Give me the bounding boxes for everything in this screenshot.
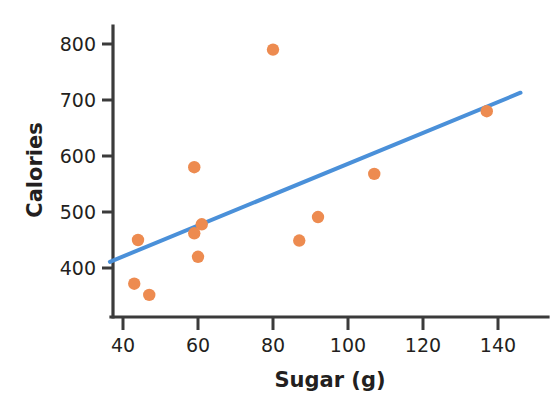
trend-line	[110, 93, 521, 262]
data-point	[481, 105, 493, 117]
x-tick-label-40: 40	[111, 334, 135, 356]
x-axis-title: Sugar (g)	[274, 368, 385, 392]
x-tick-label-80: 80	[261, 334, 285, 356]
y-axis-ticks	[102, 44, 113, 268]
data-point	[368, 168, 380, 180]
data-point	[312, 211, 324, 223]
x-axis-tick-labels: 40 60 80 100 120 140	[111, 334, 516, 356]
data-point	[143, 289, 155, 301]
x-tick-label-140: 140	[480, 334, 516, 356]
data-point	[128, 277, 140, 289]
x-tick-label-60: 60	[186, 334, 210, 356]
scatter-plot-figure: 800 700 600 500 400 40 60 80 100 120 140	[0, 0, 556, 402]
x-axis-ticks	[123, 317, 498, 330]
data-point	[267, 43, 279, 55]
data-point	[188, 161, 200, 173]
data-points-group	[128, 43, 493, 301]
y-axis-tick-labels: 800 700 600 500 400	[60, 33, 96, 279]
y-tick-label-400: 400	[60, 257, 96, 279]
y-tick-label-500: 500	[60, 201, 96, 223]
x-tick-label-100: 100	[330, 334, 366, 356]
data-point	[192, 251, 204, 263]
data-point	[293, 234, 305, 246]
chart-canvas: 800 700 600 500 400 40 60 80 100 120 140	[0, 0, 556, 402]
y-axis-title: Calories	[23, 122, 47, 218]
y-tick-label-600: 600	[60, 145, 96, 167]
y-tick-label-700: 700	[60, 89, 96, 111]
data-point	[132, 234, 144, 246]
data-point	[196, 218, 208, 230]
y-tick-label-800: 800	[60, 33, 96, 55]
x-tick-label-120: 120	[405, 334, 441, 356]
